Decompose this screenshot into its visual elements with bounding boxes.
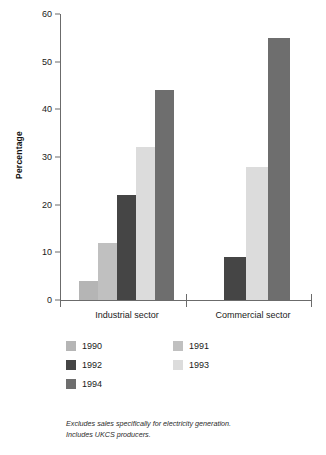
bar-industrial-1993 <box>136 147 155 300</box>
footnote-line-1: Excludes sales specifically for electric… <box>66 418 316 429</box>
legend-item-1990[interactable]: 1990 <box>66 341 102 351</box>
footnote-line-2: Includes UKCS producers. <box>66 429 316 440</box>
legend-item-1994[interactable]: 1994 <box>66 379 102 389</box>
bar-industrial-1991 <box>98 243 117 300</box>
chart-legend: 1990 1991 1992 1993 1994 <box>66 341 266 398</box>
x-axis-group-label-industrial: Industrial sector <box>95 310 159 320</box>
y-tick-label: 30 <box>26 153 52 162</box>
y-tick-label: 10 <box>26 248 52 257</box>
bar-commercial-1992 <box>224 257 246 300</box>
y-axis-tick-labels: 60 50 40 30 20 10 0 <box>26 14 52 300</box>
bars-layer <box>60 14 312 300</box>
legend-row: 1990 1991 <box>66 341 266 360</box>
x-axis-group-label-commercial: Commercial sector <box>215 310 290 320</box>
legend-swatch-icon <box>173 341 183 351</box>
legend-row: 1994 <box>66 379 266 398</box>
y-tick-label: 60 <box>26 10 52 19</box>
legend-item-1993[interactable]: 1993 <box>173 360 209 370</box>
legend-row: 1992 1993 <box>66 360 266 379</box>
legend-swatch-icon <box>66 379 76 389</box>
bar-industrial-1994 <box>155 90 174 300</box>
legend-label: 1990 <box>82 342 102 351</box>
legend-swatch-icon <box>173 360 183 370</box>
plot-area: Percentage 60 50 40 30 20 10 0 <box>0 14 326 320</box>
legend-label: 1991 <box>189 342 209 351</box>
y-tick-label: 0 <box>26 296 52 305</box>
bar-commercial-1993 <box>246 167 268 300</box>
y-tick-label: 40 <box>26 105 52 114</box>
y-tick-label: 50 <box>26 57 52 66</box>
legend-item-1992[interactable]: 1992 <box>66 360 102 370</box>
chart-footnote: Excludes sales specifically for electric… <box>66 418 316 440</box>
bar-chart: Percentage 60 50 40 30 20 10 0 <box>0 0 326 455</box>
legend-label: 1992 <box>82 361 102 370</box>
bar-industrial-1990 <box>79 281 98 300</box>
legend-label: 1994 <box>82 380 102 389</box>
y-axis-title: Percentage <box>14 110 24 200</box>
bar-commercial-1994 <box>268 38 290 300</box>
y-tick-label: 20 <box>26 200 52 209</box>
bar-industrial-1992 <box>117 195 136 300</box>
legend-swatch-icon <box>66 360 76 370</box>
legend-swatch-icon <box>66 341 76 351</box>
legend-label: 1993 <box>189 361 209 370</box>
legend-item-1991[interactable]: 1991 <box>173 341 209 351</box>
